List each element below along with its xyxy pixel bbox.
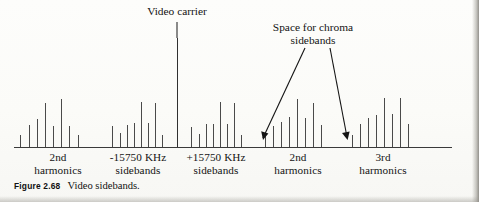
figure-number: Figure 2.68 [14,181,60,191]
label-3rd-harmonics-line-1: 3rd [333,151,433,164]
spectrum-line [177,38,178,148]
spectrum-line [220,102,221,148]
spectrum-line [321,125,322,148]
annotation-chroma-line-2: sidebands [238,34,388,47]
annotation-video-carrier: Video carrier [117,5,237,18]
spectrum-line [305,118,306,148]
spectrum-line [297,99,298,148]
spectrum-line [69,126,70,148]
spectrum-line [127,125,128,148]
spectrum-line [37,119,38,148]
spectrum-line [45,103,46,148]
spectrum-line [368,118,369,148]
label-3rd-harmonics-line-2: harmonics [333,164,433,177]
label-3rd-harmonics: 3rd harmonics [333,151,433,176]
scan-edge-right [472,0,479,202]
figure-page: Video carrier Space for chroma sidebands… [0,0,479,202]
spectrum-line [392,114,393,148]
spectrum-line [199,134,200,148]
annotation-chroma-line-1: Space for chroma [238,21,388,34]
spectrum-line [289,117,290,148]
spectrum-line [313,103,314,148]
spectrum-line [53,126,54,148]
spectrum-line [141,102,142,148]
spectrum-line [281,122,282,148]
spectrum-line [134,123,135,148]
spectrum-line [213,124,214,148]
figure-caption: Figure 2.68Video sidebands. [14,180,140,191]
figure-caption-text: Video sidebands. [67,180,139,191]
spectrum-line [273,126,274,148]
spectrum-line [61,99,62,148]
spectrum-line [29,125,30,148]
scan-edge-bottom [0,196,479,202]
spectrum-line [206,124,207,148]
spectrum-line [191,127,192,148]
spectrum-line [112,126,113,148]
spectrum-line [155,103,156,148]
frequency-axis-baseline [14,147,452,148]
annotation-video-carrier-line-1: Video carrier [117,5,237,18]
spectrum-line [227,124,228,148]
spectrum-line [120,133,121,148]
spectrum-line [360,124,361,148]
annotation-chroma-sidebands: Space for chroma sidebands [238,21,388,47]
spectrum-line [400,98,401,148]
spectrum-line [384,98,385,148]
spectrum-line [234,103,235,148]
spectrum-line [408,124,409,148]
spectrum-line [148,123,149,148]
spectrum-line [376,115,377,148]
